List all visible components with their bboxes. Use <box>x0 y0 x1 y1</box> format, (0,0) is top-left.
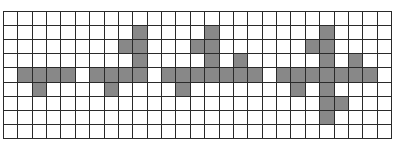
empty-cell <box>162 111 175 124</box>
empty-cell <box>335 111 348 124</box>
empty-cell <box>191 111 204 124</box>
empty-cell <box>378 125 391 138</box>
empty-cell <box>33 111 46 124</box>
empty-cell <box>234 40 247 53</box>
empty-cell <box>220 12 233 25</box>
empty-cell <box>119 83 132 96</box>
empty-cell <box>378 54 391 67</box>
empty-cell <box>363 111 376 124</box>
empty-cell <box>47 54 60 67</box>
empty-cell <box>335 26 348 39</box>
filled-cell <box>277 68 290 81</box>
filled-cell <box>47 68 60 81</box>
empty-cell <box>306 97 319 110</box>
empty-cell <box>148 125 161 138</box>
empty-cell <box>33 125 46 138</box>
empty-cell <box>363 97 376 110</box>
empty-cell <box>76 68 89 81</box>
empty-cell <box>119 26 132 39</box>
empty-cell <box>234 111 247 124</box>
empty-cell <box>176 54 189 67</box>
empty-cell <box>291 26 304 39</box>
empty-cell <box>90 125 103 138</box>
empty-cell <box>191 83 204 96</box>
filled-cell <box>320 111 333 124</box>
empty-cell <box>191 54 204 67</box>
empty-cell <box>248 26 261 39</box>
filled-cell <box>18 68 31 81</box>
empty-cell <box>148 83 161 96</box>
empty-cell <box>61 97 74 110</box>
empty-cell <box>162 54 175 67</box>
empty-cell <box>176 97 189 110</box>
filled-cell <box>363 68 376 81</box>
empty-cell <box>18 83 31 96</box>
filled-cell <box>191 68 204 81</box>
empty-cell <box>349 125 362 138</box>
filled-cell <box>33 83 46 96</box>
filled-cell <box>119 68 132 81</box>
empty-cell <box>76 54 89 67</box>
empty-cell <box>277 111 290 124</box>
filled-cell <box>133 40 146 53</box>
empty-cell <box>277 26 290 39</box>
empty-cell <box>378 97 391 110</box>
empty-cell <box>133 12 146 25</box>
empty-cell <box>378 12 391 25</box>
empty-cell <box>4 54 17 67</box>
empty-cell <box>234 125 247 138</box>
empty-cell <box>162 12 175 25</box>
empty-cell <box>248 83 261 96</box>
empty-cell <box>220 54 233 67</box>
filled-cell <box>306 68 319 81</box>
empty-cell <box>320 12 333 25</box>
empty-cell <box>349 97 362 110</box>
filled-cell <box>320 40 333 53</box>
empty-cell <box>234 97 247 110</box>
empty-cell <box>76 26 89 39</box>
empty-cell <box>363 125 376 138</box>
empty-cell <box>363 40 376 53</box>
filled-cell <box>320 97 333 110</box>
empty-cell <box>47 111 60 124</box>
empty-cell <box>148 40 161 53</box>
empty-cell <box>119 111 132 124</box>
filled-cell <box>306 40 319 53</box>
empty-cell <box>119 54 132 67</box>
empty-cell <box>76 97 89 110</box>
empty-cell <box>90 111 103 124</box>
empty-cell <box>248 12 261 25</box>
empty-cell <box>378 68 391 81</box>
empty-cell <box>61 40 74 53</box>
filled-cell <box>320 68 333 81</box>
empty-cell <box>162 97 175 110</box>
empty-cell <box>205 111 218 124</box>
filled-cell <box>61 68 74 81</box>
empty-cell <box>277 125 290 138</box>
empty-cell <box>105 26 118 39</box>
empty-cell <box>263 12 276 25</box>
empty-cell <box>363 26 376 39</box>
empty-cell <box>176 125 189 138</box>
empty-cell <box>248 54 261 67</box>
filled-cell <box>176 68 189 81</box>
empty-cell <box>263 26 276 39</box>
empty-cell <box>18 125 31 138</box>
empty-cell <box>349 83 362 96</box>
empty-cell <box>263 68 276 81</box>
filled-cell <box>205 40 218 53</box>
empty-cell <box>335 125 348 138</box>
empty-cell <box>363 83 376 96</box>
empty-cell <box>76 125 89 138</box>
empty-cell <box>306 125 319 138</box>
empty-cell <box>90 12 103 25</box>
empty-cell <box>148 68 161 81</box>
empty-cell <box>320 125 333 138</box>
empty-cell <box>291 40 304 53</box>
empty-cell <box>47 26 60 39</box>
empty-cell <box>277 54 290 67</box>
empty-cell <box>105 125 118 138</box>
empty-cell <box>119 12 132 25</box>
filled-cell <box>320 26 333 39</box>
empty-cell <box>76 83 89 96</box>
